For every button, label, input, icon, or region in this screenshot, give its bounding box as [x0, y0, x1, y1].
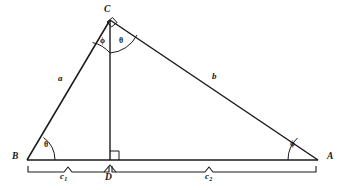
vertex-label-D: D — [105, 173, 112, 183]
brace-d-peak — [104, 165, 116, 172]
angle-label-B-theta: θ — [44, 141, 48, 149]
segment-label-c2: c2 — [205, 172, 212, 181]
triangle-figure-svg — [0, 0, 345, 190]
side-a-line-BC — [27, 20, 110, 160]
side-label-b: b — [212, 72, 217, 81]
segment-label-c1: c1 — [60, 172, 67, 181]
segment-label-c2-subscript: 2 — [209, 176, 212, 182]
vertex-label-B: B — [12, 152, 19, 162]
vertex-label-C: C — [104, 5, 111, 15]
angle-arc-C-right — [110, 35, 137, 53]
geometry-diagram: B A C D a b θ ϕ ϕ θ c1 c2 — [0, 0, 345, 190]
angle-label-C-phi: ϕ — [100, 37, 105, 45]
angle-label-A-phi: ϕ — [290, 140, 295, 148]
side-b-line-CA — [110, 20, 318, 160]
angle-label-C-theta: θ — [119, 37, 123, 45]
vertex-label-A: A — [327, 152, 334, 162]
segment-label-c1-subscript: 1 — [64, 176, 67, 182]
brace-c1-path — [28, 166, 109, 172]
right-angle-marker-D — [110, 151, 119, 160]
side-label-a: a — [58, 74, 63, 83]
brace-c2-path — [112, 166, 316, 172]
